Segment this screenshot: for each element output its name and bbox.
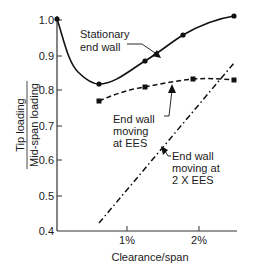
svg-text:at EES: at EES	[113, 137, 147, 149]
svg-text:0.4: 0.4	[39, 225, 54, 237]
annotation-2xees: End wall moving at 2 X EES	[161, 146, 220, 186]
svg-text:0.8: 0.8	[39, 84, 54, 96]
svg-text:0.9: 0.9	[39, 50, 54, 62]
svg-text:Tip loading: Tip loading	[14, 98, 26, 151]
y-tick-labels: 1.0 0.9 0.8 0.7 0.6 0.5 0.4	[39, 14, 54, 237]
x-ticks	[127, 226, 199, 231]
svg-text:moving at: moving at	[172, 162, 220, 174]
svg-text:2 X EES: 2 X EES	[172, 174, 214, 186]
svg-text:0.6: 0.6	[39, 154, 54, 166]
annotation-ees: End wall moving at EES	[113, 84, 176, 149]
annotation-stationary: Stationary end wall	[80, 28, 161, 58]
chart: 1.0 0.9 0.8 0.7 0.6 0.5 0.4 1% 2% Cleara…	[0, 0, 256, 269]
svg-text:end wall: end wall	[80, 41, 120, 53]
x-axis-label: Clearance/span	[111, 251, 188, 263]
y-ticks	[57, 20, 62, 196]
series-ees-markers	[97, 77, 237, 104]
svg-text:moving: moving	[113, 125, 148, 137]
svg-text:0.5: 0.5	[39, 190, 54, 202]
svg-text:End wall: End wall	[113, 113, 155, 125]
y-axis-label: Tip loading Mid-span loading	[14, 81, 40, 169]
x-tick-label-1: 1%	[119, 234, 135, 246]
svg-text:Stationary: Stationary	[80, 28, 130, 40]
x-tick-label-2: 2%	[191, 234, 207, 246]
svg-text:0.7: 0.7	[39, 120, 54, 132]
svg-text:End wall: End wall	[172, 150, 214, 162]
series-ees-line	[99, 79, 234, 101]
svg-text:Mid-span loading: Mid-span loading	[28, 83, 40, 167]
svg-text:1.0: 1.0	[39, 14, 54, 26]
